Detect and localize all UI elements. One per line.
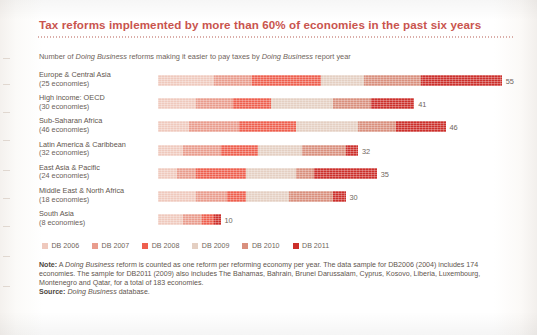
note-line1-a: A	[57, 261, 65, 269]
bar-segment[interactable]	[271, 98, 334, 109]
region-economies-count: (25 economies)	[39, 80, 157, 89]
source-italic: Doing Business	[65, 288, 116, 296]
legend-item[interactable]: DB 2008	[142, 242, 179, 250]
bar-segment[interactable]	[158, 75, 214, 86]
stacked-bar[interactable]	[158, 191, 346, 202]
bar-segment[interactable]	[296, 168, 315, 179]
bar-segment[interactable]	[158, 121, 189, 132]
subtitle-part-e: report year	[313, 52, 351, 61]
bar-segment[interactable]	[258, 145, 302, 156]
bar-segment[interactable]	[214, 75, 252, 86]
stacked-bar[interactable]	[158, 121, 446, 132]
scan-edge-marks	[0, 0, 16, 335]
region-economies-count: (46 economies)	[39, 126, 157, 135]
bar-segment[interactable]	[358, 121, 396, 132]
bar-segment[interactable]	[196, 98, 234, 109]
bar-total-value: 10	[225, 216, 233, 225]
figure-container: Tax reforms implemented by more than 60%…	[36, 14, 514, 322]
figure-subtitle: Number of Doing Business reforms making …	[39, 52, 514, 61]
stacked-bar[interactable]	[158, 214, 221, 225]
bar-track: 10	[158, 214, 514, 225]
bar-segment[interactable]	[239, 121, 295, 132]
bar-segment[interactable]	[183, 145, 221, 156]
subtitle-part-a: Number of	[39, 52, 76, 61]
bar-segment[interactable]	[158, 145, 183, 156]
bar-segment[interactable]	[246, 191, 290, 202]
stacked-bar[interactable]	[158, 168, 377, 179]
legend-item[interactable]: DB 2010	[242, 242, 279, 250]
chart-row: Sub-Saharan Africa(46 economies)46	[36, 118, 514, 141]
bar-segment[interactable]	[346, 145, 359, 156]
legend-item[interactable]: DB 2009	[192, 242, 229, 250]
legend-label: DB 2006	[52, 242, 80, 250]
note-italic-1: Doing Business	[65, 261, 114, 269]
note-paragraph: Note: A Doing Business reform is counted…	[39, 261, 514, 288]
bar-segment[interactable]	[314, 168, 377, 179]
note-line1-b: reform is counted as one reform per refo…	[114, 261, 436, 269]
legend-item[interactable]: DB 2006	[42, 242, 79, 250]
legend-swatch-icon	[242, 243, 248, 249]
region-economies-count: (8 economies)	[39, 219, 157, 228]
figure-notes: Note: A Doing Business reform is counted…	[36, 261, 514, 297]
bar-segment[interactable]	[289, 191, 333, 202]
bar-segment[interactable]	[183, 214, 202, 225]
bar-segment[interactable]	[421, 75, 502, 86]
chart-legend: DB 2006DB 2007DB 2008DB 2009DB 2010DB 20…	[36, 240, 514, 252]
region-label: South Asia(8 economies)	[39, 210, 157, 227]
source-label: Source:	[39, 288, 65, 296]
bar-segment[interactable]	[396, 121, 446, 132]
title-divider	[37, 36, 514, 38]
figure-title: Tax reforms implemented by more than 60%…	[36, 14, 514, 36]
bar-segment[interactable]	[227, 191, 246, 202]
bar-segment[interactable]	[246, 168, 296, 179]
legend-label: DB 2009	[202, 242, 230, 250]
subtitle-italic-1: Doing Business	[76, 52, 127, 61]
bar-segment[interactable]	[196, 168, 246, 179]
bar-segment[interactable]	[221, 145, 259, 156]
legend-item[interactable]: DB 2011	[293, 242, 330, 250]
bar-segment[interactable]	[158, 191, 196, 202]
chart-row: East Asia & Pacific(24 economies)35	[36, 165, 514, 188]
legend-swatch-icon	[142, 243, 148, 249]
region-label: Middle East & North Africa(18 economies)	[39, 187, 157, 204]
source-tail: database.	[117, 288, 150, 296]
figure-page: Tax reforms implemented by more than 60%…	[0, 0, 537, 335]
bar-segment[interactable]	[252, 75, 321, 86]
bar-segment[interactable]	[189, 121, 239, 132]
subtitle-italic-2: Doing Business	[262, 52, 313, 61]
bar-segment[interactable]	[202, 214, 215, 225]
legend-swatch-icon	[192, 243, 198, 249]
bar-segment[interactable]	[158, 168, 177, 179]
bar-segment[interactable]	[196, 191, 227, 202]
bar-segment[interactable]	[333, 191, 346, 202]
bar-segment[interactable]	[296, 121, 359, 132]
legend-label: DB 2007	[102, 242, 130, 250]
bar-segment[interactable]	[333, 98, 371, 109]
bar-segment[interactable]	[302, 145, 346, 156]
bar-track: 32	[158, 145, 514, 156]
legend-label: DB 2008	[152, 242, 180, 250]
region-economies-count: (30 economies)	[39, 103, 157, 112]
stacked-bar[interactable]	[158, 75, 502, 86]
bar-total-value: 41	[418, 100, 426, 109]
bar-segment[interactable]	[158, 214, 183, 225]
chart-row: South Asia(8 economies)10	[36, 211, 514, 234]
bar-segment[interactable]	[233, 98, 271, 109]
bar-segment[interactable]	[177, 168, 196, 179]
bar-segment[interactable]	[321, 75, 365, 86]
bar-segment[interactable]	[158, 98, 196, 109]
bar-segment[interactable]	[364, 75, 420, 86]
bar-track: 55	[158, 75, 514, 86]
chart-row: Latin America & Caribbean(32 economies)3…	[36, 142, 514, 165]
region-label: High income: OECD(30 economies)	[39, 94, 157, 111]
bar-segment[interactable]	[214, 214, 220, 225]
bar-total-value: 55	[506, 77, 514, 86]
stacked-bar[interactable]	[158, 145, 358, 156]
note-label: Note:	[39, 261, 57, 269]
legend-swatch-icon	[293, 243, 299, 249]
stacked-bar-chart: Europe & Central Asia(25 economies)55Hig…	[36, 72, 514, 234]
bar-segment[interactable]	[371, 98, 415, 109]
region-economies-count: (18 economies)	[39, 196, 157, 205]
stacked-bar[interactable]	[158, 98, 414, 109]
legend-item[interactable]: DB 2007	[92, 242, 129, 250]
